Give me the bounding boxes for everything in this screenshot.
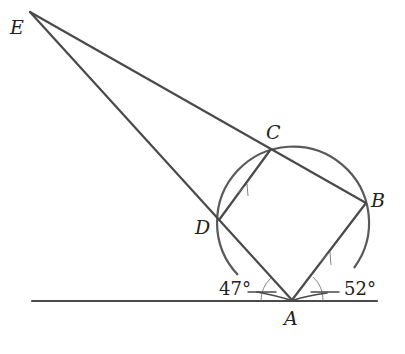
line-EB <box>30 12 366 203</box>
angle-arc-left <box>261 278 271 301</box>
diagram-canvas: E C B D A 47° 52° <box>0 0 405 354</box>
label-E: E <box>9 16 24 38</box>
label-B: B <box>370 189 385 211</box>
line-EA <box>30 12 292 300</box>
label-C: C <box>266 121 281 143</box>
angle-label-47: 47° <box>219 278 251 299</box>
angle-tick-right <box>294 293 327 300</box>
angle-label-52: 52° <box>344 278 376 299</box>
label-D: D <box>194 216 210 238</box>
geometry-diagram: E C B D A 47° 52° <box>0 0 405 354</box>
circle-arc <box>217 147 369 275</box>
angle-arc-right <box>313 277 323 301</box>
label-A: A <box>282 307 298 329</box>
